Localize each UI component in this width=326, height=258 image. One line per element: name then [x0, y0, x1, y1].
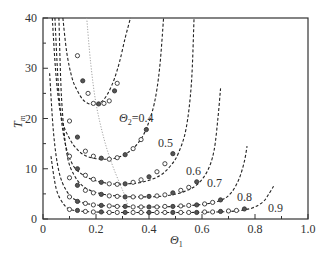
data-point-marker: [155, 210, 159, 214]
data-point-marker: [75, 199, 79, 203]
data-point-marker: [131, 147, 135, 151]
data-point-marker: [83, 201, 87, 205]
data-point-marker: [187, 185, 191, 189]
data-point-marker: [218, 209, 222, 213]
data-point-marker: [91, 154, 95, 158]
data-point-marker: [211, 200, 215, 204]
data-point-marker: [99, 203, 103, 207]
data-point-marker: [147, 194, 151, 198]
curve-label-0.8: 0.8: [237, 190, 252, 204]
y-tick-label: 0: [31, 212, 37, 226]
data-point-marker: [131, 180, 135, 184]
data-point-marker: [75, 183, 79, 187]
data-point-marker: [234, 208, 238, 212]
data-point-marker: [115, 204, 119, 208]
data-point-marker: [112, 89, 116, 93]
plot-frame: [43, 18, 308, 219]
data-point-marker: [179, 210, 183, 214]
data-point-marker: [91, 101, 95, 105]
curve-label-0.4: Θ2=0.4: [119, 111, 153, 127]
data-point-marker: [123, 195, 127, 199]
data-point-marker: [242, 207, 246, 211]
data-point-marker: [195, 203, 199, 207]
data-point-marker: [107, 204, 111, 208]
data-point-marker: [147, 205, 151, 209]
x-tick-label: 0.6: [195, 222, 210, 236]
data-point-marker: [139, 195, 143, 199]
data-point-marker: [99, 180, 103, 184]
data-point-marker: [131, 210, 135, 214]
curve-label-0.9: 0.9: [268, 201, 283, 215]
data-point-marker: [163, 204, 167, 208]
data-markers: [67, 54, 246, 215]
data-point-marker: [91, 210, 95, 214]
data-point-marker: [67, 119, 71, 123]
curve-label-0.5: 0.5: [158, 136, 173, 150]
data-point-marker: [139, 178, 143, 182]
data-point-marker: [155, 194, 159, 198]
data-point-marker: [86, 91, 90, 95]
data-curves: [50, 18, 274, 213]
data-point-marker: [91, 203, 95, 207]
data-point-marker: [123, 210, 127, 214]
data-point-marker: [67, 207, 71, 211]
data-point-marker: [115, 81, 119, 85]
y-tick-label: 30: [25, 61, 37, 75]
y-tick-label: 10: [25, 162, 37, 176]
data-point-marker: [179, 188, 183, 192]
data-point-marker: [83, 149, 87, 153]
data-point-marker: [147, 175, 151, 179]
axis-ticks: [43, 18, 308, 219]
data-point-marker: [123, 204, 127, 208]
data-point-marker: [75, 54, 79, 58]
x-tick-label: 0.8: [248, 222, 263, 236]
data-point-marker: [171, 152, 175, 156]
data-point-marker: [107, 157, 111, 161]
data-point-marker: [67, 154, 71, 158]
curve-label-0.7: 0.7: [207, 176, 222, 190]
data-point-marker: [115, 156, 119, 160]
data-point-marker: [171, 204, 175, 208]
data-point-marker: [83, 188, 87, 192]
data-point-marker: [115, 182, 119, 186]
data-point-marker: [139, 210, 143, 214]
data-point-marker: [187, 203, 191, 207]
x-axis-label: Θ1: [170, 233, 183, 249]
x-tick-label: 1.0: [301, 222, 316, 236]
data-point-marker: [131, 195, 135, 199]
data-point-marker: [171, 191, 175, 195]
data-point-marker: [91, 191, 95, 195]
data-point-marker: [107, 182, 111, 186]
data-point-marker: [179, 204, 183, 208]
data-point-marker: [171, 210, 175, 214]
data-point-marker: [99, 192, 103, 196]
data-point-marker: [102, 101, 106, 105]
data-point-marker: [115, 210, 119, 214]
data-point-marker: [97, 102, 101, 106]
data-point-marker: [115, 194, 119, 198]
x-tick-label: 0.2: [89, 222, 104, 236]
data-point-marker: [203, 202, 207, 206]
data-point-marker: [123, 153, 127, 157]
data-point-marker: [131, 205, 135, 209]
curve-0.5: [52, 18, 163, 159]
data-point-marker: [67, 195, 71, 199]
data-point-marker: [211, 210, 215, 214]
data-point-marker: [67, 176, 71, 180]
data-point-marker: [107, 99, 111, 103]
data-point-marker: [187, 210, 191, 214]
data-point-marker: [75, 208, 79, 212]
x-tick-label: 0.4: [142, 222, 157, 236]
y-axis-label: Tm: [11, 115, 27, 128]
data-point-marker: [81, 79, 85, 83]
data-point-marker: [163, 210, 167, 214]
data-point-marker: [218, 198, 222, 202]
data-point-marker: [123, 182, 127, 186]
data-point-marker: [147, 210, 151, 214]
data-point-marker: [203, 210, 207, 214]
plot-border: [43, 18, 308, 219]
data-point-marker: [163, 162, 167, 166]
data-point-marker: [155, 170, 159, 174]
data-point-marker: [75, 135, 79, 139]
data-point-marker: [155, 205, 159, 209]
